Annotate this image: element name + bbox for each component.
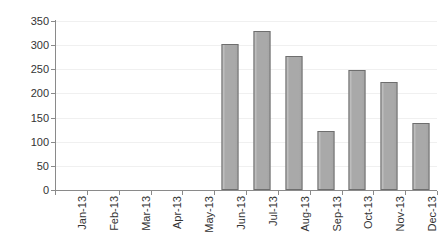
bar[interactable] bbox=[381, 82, 398, 190]
bar-slot bbox=[246, 0, 278, 190]
bar-slot bbox=[342, 0, 374, 190]
y-tick-label: 150 bbox=[31, 112, 49, 124]
bar[interactable] bbox=[285, 56, 302, 190]
x-tick-mark bbox=[278, 191, 279, 195]
x-tick-mark bbox=[214, 191, 215, 195]
y-tick-label: 200 bbox=[31, 87, 49, 99]
x-tick-mark bbox=[119, 191, 120, 195]
x-tick-label: Feb-13 bbox=[108, 196, 120, 231]
x-tick-label: May-13 bbox=[203, 196, 215, 233]
x-tick-mark bbox=[405, 191, 406, 195]
bar-chart: 050100150200250300350 Jan-13Feb-13Mar-13… bbox=[0, 0, 444, 250]
bars-layer bbox=[55, 0, 437, 190]
bar-slot bbox=[87, 0, 119, 190]
bar-slot bbox=[310, 0, 342, 190]
bar-slot bbox=[278, 0, 310, 190]
y-tick-label: 300 bbox=[31, 39, 49, 51]
x-tick-mark bbox=[55, 191, 56, 195]
bar-slot bbox=[119, 0, 151, 190]
y-axis-labels: 050100150200250300350 bbox=[0, 0, 49, 250]
x-tick-mark bbox=[182, 191, 183, 195]
bar-slot bbox=[55, 0, 87, 190]
y-tick-label: 250 bbox=[31, 63, 49, 75]
bar-slot bbox=[182, 0, 214, 190]
bar-slot bbox=[373, 0, 405, 190]
bar[interactable] bbox=[317, 131, 334, 190]
x-tick-mark bbox=[373, 191, 374, 195]
x-tick-label: Apr-13 bbox=[171, 196, 183, 229]
y-tick-label: 350 bbox=[31, 15, 49, 27]
x-axis-labels: Jan-13Feb-13Mar-13Apr-13May-13Jun-13Jul-… bbox=[55, 196, 437, 250]
bar-slot bbox=[214, 0, 246, 190]
x-tick-label: Mar-13 bbox=[140, 196, 152, 231]
x-tick-label: Aug-13 bbox=[299, 196, 311, 231]
y-tick-label: 100 bbox=[31, 136, 49, 148]
x-tick-label: Sep-13 bbox=[331, 196, 343, 231]
x-tick-label: Jul-13 bbox=[267, 196, 279, 226]
x-tick-label: Oct-13 bbox=[362, 196, 374, 229]
bar[interactable] bbox=[349, 70, 366, 190]
x-tick-mark bbox=[437, 191, 438, 195]
x-tick-mark bbox=[87, 191, 88, 195]
x-tick-mark bbox=[342, 191, 343, 195]
y-tick-label: 50 bbox=[37, 160, 49, 172]
bar-slot bbox=[151, 0, 183, 190]
x-tick-mark bbox=[151, 191, 152, 195]
bar-slot bbox=[405, 0, 437, 190]
x-tick-label: Dec-13 bbox=[426, 196, 438, 231]
x-tick-mark bbox=[246, 191, 247, 195]
x-tick-label: Jan-13 bbox=[76, 196, 88, 230]
x-tick-label: Nov-13 bbox=[394, 196, 406, 231]
x-tick-label: Jun-13 bbox=[235, 196, 247, 230]
y-tick-label: 0 bbox=[43, 184, 49, 196]
bar[interactable] bbox=[413, 123, 430, 190]
bar[interactable] bbox=[222, 44, 239, 190]
x-tick-mark bbox=[310, 191, 311, 195]
bar[interactable] bbox=[253, 31, 270, 190]
